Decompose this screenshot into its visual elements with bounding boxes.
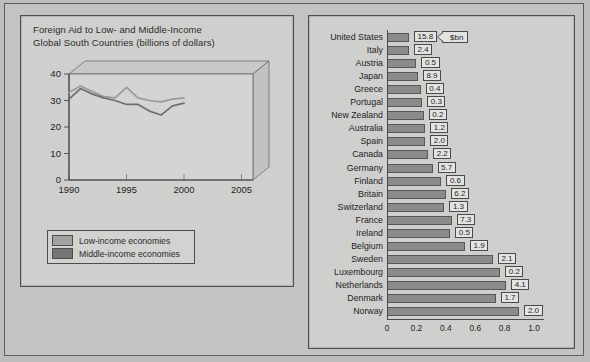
bar-value-label: 0.5 <box>421 57 439 68</box>
left-chart-title-line1: Foreign Aid to Low- and Middle-Income <box>33 24 283 37</box>
bar-chart-plot: United States15.8$bnItaly2.4Austria0.5Ja… <box>309 16 576 350</box>
bar-value-label: 2.2 <box>433 148 451 159</box>
bar-category-label: Finland <box>287 175 383 188</box>
bar-category-label: Japan <box>287 70 383 83</box>
bar-category-label: Ireland <box>287 227 383 240</box>
figure-root: Foreign Aid to Low- and Middle-Income Gl… <box>0 0 590 362</box>
line-chart-ytick: 30 <box>50 95 61 106</box>
bar-rect <box>387 59 416 68</box>
bar-category-label: Britain <box>287 188 383 201</box>
left-chart-title: Foreign Aid to Low- and Middle-Income Gl… <box>33 24 283 49</box>
bar-rect <box>387 242 465 251</box>
bar-row: Denmark1.7 <box>309 292 576 305</box>
bar-row: Italy2.4 <box>309 44 576 57</box>
bar-category-label: Italy <box>287 44 383 57</box>
bar-value-label: 2.0 <box>430 135 448 146</box>
bar-row: Norway2.0 <box>309 305 576 318</box>
bar-row: Portugal0.3 <box>309 96 576 109</box>
bar-category-label: Luxembourg <box>287 266 383 279</box>
bar-rect <box>387 216 452 225</box>
bar-category-label: Greece <box>287 83 383 96</box>
bar-value-label: 1.7 <box>501 292 519 303</box>
bar-row: Spain2.0 <box>309 135 576 148</box>
bar-category-label: Spain <box>287 135 383 148</box>
bar-value-label: 0.4 <box>426 83 444 94</box>
bar-rect <box>387 190 446 199</box>
bar-rect <box>387 281 506 290</box>
bar-value-label: 7.3 <box>457 214 475 225</box>
bar-value-label: 1.3 <box>449 201 467 212</box>
bar-rect <box>387 98 422 107</box>
bar-value-label: 2.0 <box>524 305 542 316</box>
bar-chart-xtick: 0.2 <box>411 323 423 333</box>
bar-chart-xtick: 0.6 <box>469 323 481 333</box>
legend-item-low-income: Low-income economies <box>52 234 190 247</box>
bar-chart-xtick: 0 <box>385 323 390 333</box>
bar-rect <box>387 33 409 42</box>
bar-category-label: United States <box>287 31 383 44</box>
bar-value-label: 0.6 <box>446 175 464 186</box>
bar-rect <box>387 46 409 55</box>
bar-row: Greece0.4 <box>309 83 576 96</box>
bar-row: Switzerland1.3 <box>309 201 576 214</box>
legend-item-middle-income: Middle-income economies <box>52 247 190 260</box>
left-chart-legend: Low-income economies Middle-income econo… <box>47 230 195 264</box>
bar-rect <box>387 203 444 212</box>
bar-category-label: Netherlands <box>287 279 383 292</box>
bar-value-label: 1.9 <box>470 240 488 251</box>
bar-value-label: 6.2 <box>451 188 469 199</box>
line-chart-xtick: 2000 <box>174 184 195 195</box>
bar-category-label: Australia <box>287 122 383 135</box>
bar-chart-x-axis <box>387 319 544 320</box>
right-chart-panel: United States15.8$bnItaly2.4Austria0.5Ja… <box>308 15 575 349</box>
bar-rect <box>387 85 421 94</box>
line-chart-ytick: 40 <box>50 68 61 79</box>
bar-row: Sweden2.1 <box>309 253 576 266</box>
bar-value-label: 0.5 <box>455 227 473 238</box>
bar-row: Britain6.2 <box>309 188 576 201</box>
bar-row: France7.3 <box>309 214 576 227</box>
bar-value-label: 15.8 <box>414 31 437 42</box>
bar-rect <box>387 150 428 159</box>
bar-category-label: Denmark <box>287 292 383 305</box>
bar-row: Luxembourg0.2 <box>309 266 576 279</box>
bar-rect <box>387 111 424 120</box>
bar-category-label: Belgium <box>287 240 383 253</box>
bar-chart-xtick: 0.4 <box>440 323 452 333</box>
left-chart-panel: Foreign Aid to Low- and Middle-Income Gl… <box>20 15 294 287</box>
bar-rect <box>387 307 519 316</box>
line-chart-plot: 0102030401990199520002005 <box>31 54 286 206</box>
bar-category-label: Germany <box>287 162 383 175</box>
line-chart-ytick: 20 <box>50 121 61 132</box>
left-chart-title-line2: Global South Countries (billions of doll… <box>33 37 283 50</box>
bar-chart-xtick: 0.8 <box>499 323 511 333</box>
bar-value-label: 1.2 <box>430 122 448 133</box>
bar-category-label: Sweden <box>287 253 383 266</box>
bar-category-label: Switzerland <box>287 201 383 214</box>
bar-category-label: Portugal <box>287 96 383 109</box>
bar-row: Canada2.2 <box>309 148 576 161</box>
line-chart-xtick: 1990 <box>59 184 80 195</box>
bar-category-label: France <box>287 214 383 227</box>
bar-category-label: Canada <box>287 148 383 161</box>
bar-value-label: 2.4 <box>414 44 432 55</box>
bar-row: Germany5.7 <box>309 162 576 175</box>
bar-row: Finland0.6 <box>309 175 576 188</box>
bar-value-label: 0.2 <box>429 109 447 120</box>
bar-rect <box>387 124 425 133</box>
bar-rect <box>387 268 500 277</box>
bar-row: Netherlands4.1 <box>309 279 576 292</box>
bar-category-label: Norway <box>287 305 383 318</box>
bar-rect <box>387 164 433 173</box>
legend-swatch-middle-income <box>52 248 73 259</box>
bar-value-label: 8.9 <box>423 70 441 81</box>
line-chart-ytick: 10 <box>50 148 61 159</box>
bar-rect <box>387 255 493 264</box>
bar-value-label: 2.1 <box>498 253 516 264</box>
line-chart-xtick: 1995 <box>116 184 137 195</box>
callout-label: $bn <box>450 33 463 42</box>
bar-row: Australia1.2 <box>309 122 576 135</box>
figure-outer-frame: Foreign Aid to Low- and Middle-Income Gl… <box>4 3 584 356</box>
bar-rect <box>387 229 450 238</box>
bar-chart-xtick: 1.0 <box>528 323 540 333</box>
